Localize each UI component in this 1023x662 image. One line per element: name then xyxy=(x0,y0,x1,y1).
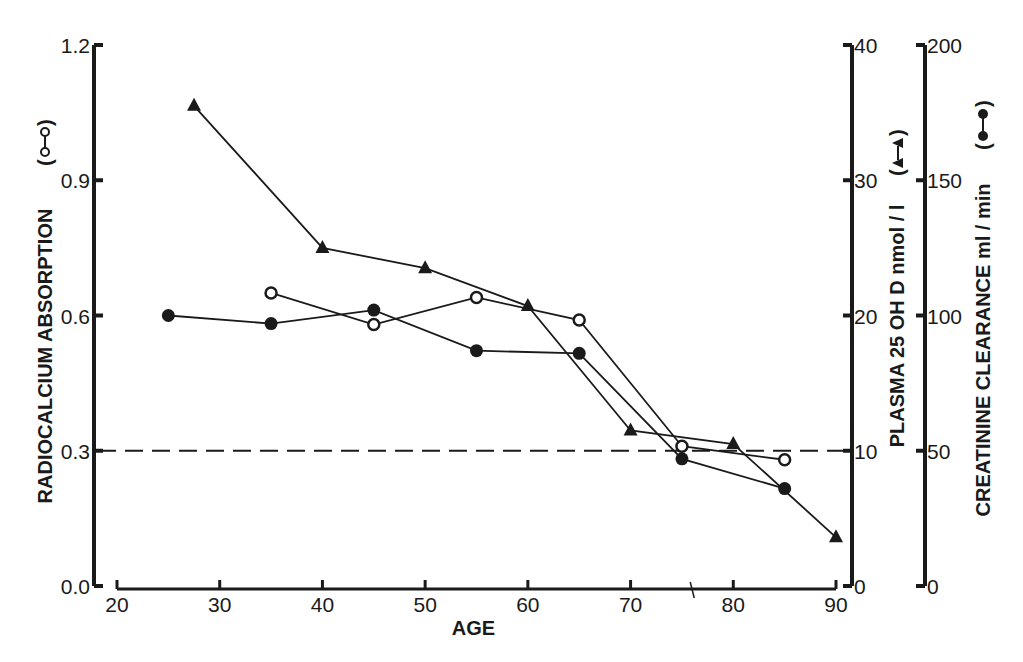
left-tick-label: 0.6 xyxy=(61,305,90,328)
right2-tick-label: 0 xyxy=(927,575,939,598)
filled-circle-marker xyxy=(162,309,175,322)
legend-filled-circle-icon xyxy=(978,109,988,119)
right1-tick-label: 30 xyxy=(854,169,877,192)
filled-circle-marker xyxy=(675,452,688,465)
x-tick-label: 50 xyxy=(413,593,436,616)
right2-axis-title: CREATININE CLEARANCE ml / min xyxy=(972,184,994,517)
right1-tick-label: 0 xyxy=(854,575,866,598)
legend-open-circle-icon xyxy=(41,128,49,136)
chart: 0.00.30.60.91.20102030400501001502002030… xyxy=(0,0,1023,662)
filled-circle-marker xyxy=(470,344,483,357)
left-tick-label: 1.2 xyxy=(61,34,90,57)
x-tick-label: 30 xyxy=(208,593,231,616)
right1-tick-label: 10 xyxy=(854,440,877,463)
legend-paren-close: ) xyxy=(972,100,994,107)
right2-tick-label: 200 xyxy=(927,34,962,57)
left-axis-title: RADIOCALCIUM ABSORPTION xyxy=(34,209,56,504)
right2-tick-label: 150 xyxy=(927,169,962,192)
filled-circle-marker xyxy=(265,317,278,330)
legend-paren-close: ) xyxy=(886,129,908,136)
left-tick-label: 0.0 xyxy=(61,575,90,598)
triangle-marker xyxy=(187,98,201,111)
x-tick-label: 70 xyxy=(619,593,642,616)
triangle-marker xyxy=(829,529,843,542)
x-tick-label: 80 xyxy=(722,593,745,616)
left-axis-title-group: RADIOCALCIUM ABSORPTION() xyxy=(34,119,56,503)
right1-tick-label: 20 xyxy=(854,305,877,328)
legend-filled-circle-icon xyxy=(978,131,988,141)
x-tick-label: 20 xyxy=(105,593,128,616)
x-tick-label: 60 xyxy=(516,593,539,616)
right1-tick-label: 40 xyxy=(854,34,877,57)
filled-circle-marker xyxy=(778,482,791,495)
open-circle-marker xyxy=(574,315,585,326)
open-circle-marker xyxy=(676,441,687,452)
legend-paren-open: ( xyxy=(972,143,994,150)
series-line xyxy=(168,310,784,489)
legend-paren-close: ) xyxy=(34,119,56,126)
right2-tick-label: 100 xyxy=(927,305,962,328)
right2-axis-title-group: CREATININE CLEARANCE ml / min() xyxy=(972,100,994,516)
legend-open-circle-icon xyxy=(41,148,49,156)
right1-axis-title-group: PLASMA 25 OH D nmol / l() xyxy=(886,129,908,447)
filled-circle-marker xyxy=(367,304,380,317)
x-axis-title: AGE xyxy=(452,617,495,639)
series-line xyxy=(271,293,785,460)
open-circle-marker xyxy=(266,287,277,298)
left-tick-label: 0.3 xyxy=(61,440,90,463)
x-tick-label: 90 xyxy=(824,593,847,616)
open-circle-marker xyxy=(779,454,790,465)
open-circle-marker xyxy=(368,319,379,330)
right1-axis-title: PLASMA 25 OH D nmol / l xyxy=(886,205,908,448)
open-circle-marker xyxy=(471,292,482,303)
x-tick-label: 40 xyxy=(311,593,334,616)
filled-circle-marker xyxy=(573,347,586,360)
right2-tick-label: 50 xyxy=(927,440,950,463)
series-group xyxy=(162,98,843,542)
legend-paren-open: ( xyxy=(886,169,908,176)
legend-paren-open: ( xyxy=(34,159,56,166)
left-tick-label: 0.9 xyxy=(61,169,90,192)
